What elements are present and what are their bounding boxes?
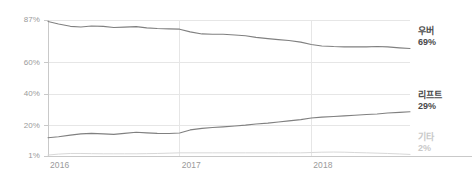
y-tick-label: 60% (0, 58, 40, 67)
y-tick-label: 87% (0, 15, 40, 24)
series-value-label-1: 69% (418, 37, 436, 48)
y-tick-label: 40% (0, 89, 40, 98)
series-line-1 (48, 22, 410, 49)
series-name-label-2: 리프트 (418, 90, 442, 101)
y-tick-label: 1% (0, 151, 40, 160)
series-name-label-1: 우버 (418, 26, 434, 37)
y-tick-label: 20% (0, 121, 40, 130)
chart-plot-area (0, 0, 472, 176)
x-tick-label: 2016 (50, 160, 69, 170)
gridlines-group (44, 20, 410, 156)
x-tick-label: 2017 (182, 160, 201, 170)
series-line-3 (48, 152, 410, 155)
series-value-label-2: 29% (418, 101, 436, 112)
vertical-gridlines-group (48, 20, 311, 156)
series-lines-group (48, 22, 410, 155)
rideshare-market-share-chart: 87%60%40%20%1% 201620172018 우버69%리프트29%기… (0, 0, 472, 176)
series-value-label-3: 2% (418, 143, 431, 154)
series-name-label-3: 기타 (418, 132, 434, 143)
x-tick-label: 2018 (313, 160, 332, 170)
series-line-2 (48, 112, 410, 138)
